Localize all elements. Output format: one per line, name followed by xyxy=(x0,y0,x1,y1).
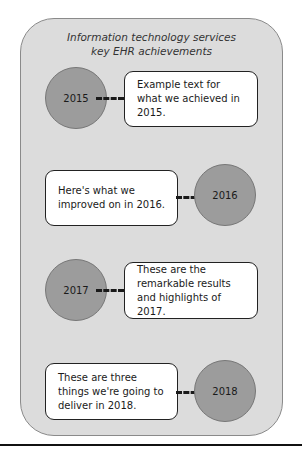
diagram-title: Information technology services key EHR … xyxy=(20,30,283,58)
milestone-box-2017: These are the remarkable results and hig… xyxy=(124,262,258,319)
year-label: 2016 xyxy=(212,190,237,201)
year-label: 2018 xyxy=(212,386,237,397)
year-circle-2016: 2016 xyxy=(194,164,256,226)
year-circle-2018: 2018 xyxy=(194,360,256,422)
horizontal-rule xyxy=(0,444,302,446)
connector-2015 xyxy=(96,97,124,100)
milestone-text: Example text for what we achieved in 201… xyxy=(137,78,247,120)
year-label: 2015 xyxy=(63,93,88,104)
connector-2017 xyxy=(96,289,124,292)
milestone-box-2015: Example text for what we achieved in 201… xyxy=(124,71,258,127)
milestone-text: These are the remarkable results and hig… xyxy=(137,263,247,319)
milestone-text: Here's what we improved on in 2016. xyxy=(58,184,168,212)
title-line-2: key EHR achievements xyxy=(20,44,283,58)
title-line-1: Information technology services xyxy=(20,30,283,44)
year-label: 2017 xyxy=(63,285,88,296)
milestone-text: These are three things we're going to de… xyxy=(58,371,168,413)
milestone-box-2016: Here's what we improved on in 2016. xyxy=(45,170,178,226)
milestone-box-2018: These are three things we're going to de… xyxy=(45,363,178,420)
